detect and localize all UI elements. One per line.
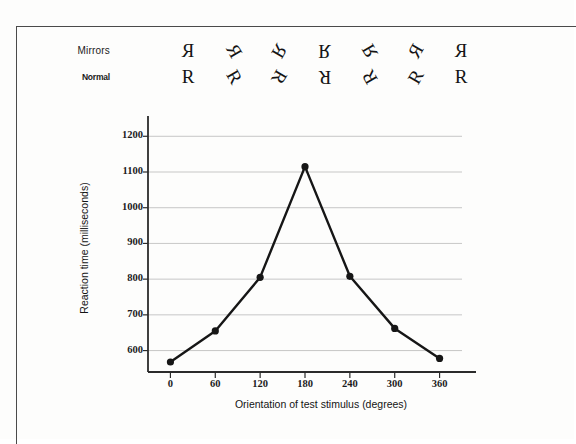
- data-point-240[interactable]: [346, 273, 353, 280]
- x-axis-title: Orientation of test stimulus (degrees): [186, 398, 456, 410]
- x-tick-label-180: 180: [290, 378, 320, 389]
- y-tick-label-600: 600: [101, 344, 143, 355]
- x-tick-label-0: 0: [155, 378, 185, 389]
- data-point-300[interactable]: [391, 325, 398, 332]
- data-point-0[interactable]: [167, 358, 174, 365]
- y-tick-label-700: 700: [101, 308, 143, 319]
- data-point-60[interactable]: [212, 327, 219, 334]
- y-tick-label-1100: 1100: [101, 165, 143, 176]
- x-tick-label-240: 240: [335, 378, 365, 389]
- x-tick-label-60: 60: [200, 378, 230, 389]
- x-tick-label-120: 120: [245, 378, 275, 389]
- x-tick-label-300: 300: [380, 378, 410, 389]
- y-axis-title: Reaction time (milliseconds): [78, 148, 90, 348]
- y-axis-title-text: Reaction time (milliseconds): [78, 148, 90, 348]
- y-tick-label-1000: 1000: [101, 201, 143, 212]
- data-point-360[interactable]: [436, 355, 443, 362]
- data-point-180[interactable]: [301, 163, 308, 170]
- y-tick-label-900: 900: [101, 236, 143, 247]
- data-point-120[interactable]: [257, 274, 264, 281]
- data-series-line: [170, 167, 439, 362]
- y-tick-label-1200: 1200: [101, 129, 143, 140]
- y-tick-label-800: 800: [101, 272, 143, 283]
- x-tick-label-360: 360: [425, 378, 455, 389]
